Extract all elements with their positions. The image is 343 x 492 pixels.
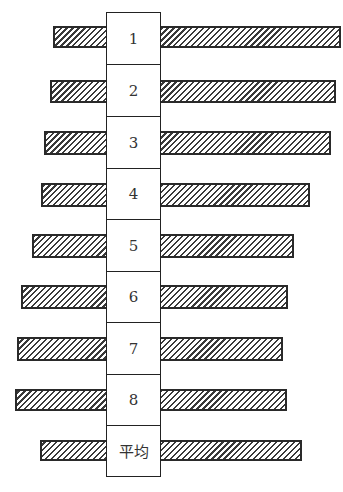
cell-1: 1 [107,13,160,65]
cell-4: 4 [107,169,160,220]
cell-label: 1 [129,30,139,48]
cell-7: 7 [107,323,160,375]
cell-label: 6 [129,288,139,306]
cell-label: 8 [129,391,139,409]
bar-4 [41,183,310,207]
bar-5 [32,234,294,258]
cell-5: 5 [107,220,160,272]
label-column: 1 2 3 4 5 6 7 8 平均 [106,12,161,477]
cell-average: 平均 [107,426,160,475]
cell-3: 3 [107,117,160,169]
diagram-stage: 1 2 3 4 5 6 7 8 平均 [0,0,343,492]
bar-1 [53,26,341,48]
cell-label: 4 [129,185,139,203]
cell-2: 2 [107,65,160,117]
bar-3 [44,131,331,155]
cell-label: 7 [129,340,139,358]
bar-2 [50,80,336,103]
cell-6: 6 [107,272,160,323]
cell-label: 5 [129,237,139,255]
cell-8: 8 [107,375,160,426]
cell-label: 3 [129,134,139,152]
bar-average [40,440,302,461]
cell-label: 平均 [119,440,149,461]
cell-label: 2 [129,82,139,100]
